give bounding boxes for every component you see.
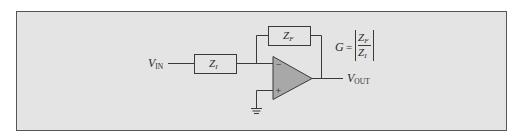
diagram-panel [17,12,507,131]
formula-equals: = [346,41,352,53]
opamp-plus-sign: + [276,85,282,96]
opamp-minus-sign: − [276,59,282,70]
circuit-diagram: − + VIN ZI ZF VOUT G = ZF ZI [0,0,520,139]
formula-lhs: G [335,40,344,54]
